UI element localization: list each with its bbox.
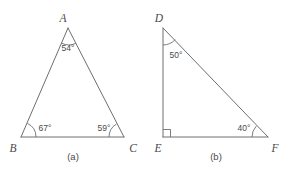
caption-a: (a): [67, 151, 79, 162]
vertex-label-f: F: [270, 142, 279, 154]
angle-arc-d: [163, 40, 175, 46]
edge-ac: [68, 28, 124, 137]
vertex-label-d: D: [154, 12, 164, 24]
vertex-label-c: C: [129, 142, 137, 154]
angle-arc-b: [27, 123, 36, 137]
angle-label-d: 50°: [170, 50, 183, 60]
angle-label-a: 54°: [62, 43, 75, 53]
vertex-label-a: A: [58, 12, 67, 24]
edge-df: [163, 28, 268, 137]
angle-arc-f: [252, 126, 256, 137]
figure-canvas: A B C D E F 54° 67° 59° 50° 40° (a) (b): [0, 0, 290, 171]
angle-label-f: 40°: [238, 123, 251, 133]
triangle-def: [163, 28, 268, 137]
caption-b: (b): [210, 151, 222, 162]
vertex-label-b: B: [9, 142, 16, 154]
vertex-label-e: E: [153, 142, 161, 154]
geometry-figure: A B C D E F 54° 67° 59° 50° 40° (a) (b): [0, 0, 290, 171]
angle-label-c: 59°: [98, 123, 111, 133]
right-angle-marker-e: [163, 130, 171, 138]
angle-label-b: 67°: [39, 123, 52, 133]
